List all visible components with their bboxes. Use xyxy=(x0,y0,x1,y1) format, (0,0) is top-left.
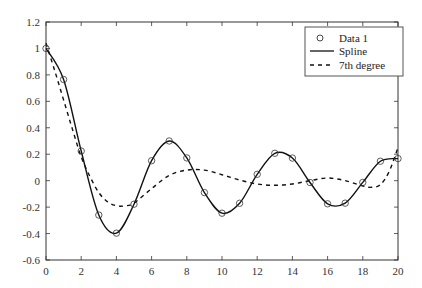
x-tick-label: 2 xyxy=(78,265,84,277)
y-tick-label: -0.4 xyxy=(23,228,41,240)
x-tick-label: 10 xyxy=(217,265,229,277)
x-tick-label: 4 xyxy=(114,265,120,277)
y-axis-tick-labels: -0.6-0.4-0.200.20.40.60.811.2 xyxy=(23,16,41,266)
y-tick-label: 1 xyxy=(35,42,41,54)
x-tick-label: 0 xyxy=(43,265,49,277)
x-tick-label: 6 xyxy=(149,265,155,277)
y-tick-label: 0.6 xyxy=(26,95,40,107)
legend-label: Spline xyxy=(339,45,367,57)
y-tick-label: 0.4 xyxy=(26,122,40,134)
y-tick-label: -0.2 xyxy=(23,201,40,213)
y-tick-label: 1.2 xyxy=(26,16,40,28)
legend: Data 1 Spline 7th degree xyxy=(305,27,403,76)
x-tick-label: 16 xyxy=(322,265,334,277)
x-tick-label: 8 xyxy=(184,265,190,277)
x-tick-label: 12 xyxy=(252,265,263,277)
y-tick-label: 0.8 xyxy=(26,69,40,81)
y-tick-label: 0.2 xyxy=(26,148,40,160)
legend-label: 7th degree xyxy=(339,59,385,71)
x-tick-label: 18 xyxy=(357,265,369,277)
chart-canvas: 02468101214161820 -0.6-0.4-0.200.20.40.6… xyxy=(0,0,422,288)
y-tick-label: -0.6 xyxy=(23,254,41,266)
y-tick-label: 0 xyxy=(35,175,41,187)
x-tick-label: 20 xyxy=(393,265,405,277)
x-axis-tick-labels: 02468101214161820 xyxy=(43,265,404,277)
legend-label: Data 1 xyxy=(339,32,368,44)
x-tick-label: 14 xyxy=(287,265,299,277)
